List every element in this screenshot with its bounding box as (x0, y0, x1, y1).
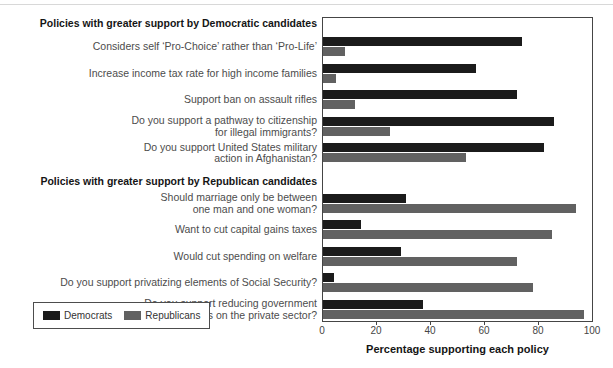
chart-row: Do you support privatizing elements of S… (0, 272, 613, 299)
legend-swatch-democrats (43, 311, 60, 320)
legend-label-republicans: Republicans (145, 310, 200, 321)
chart-row: Want to cut capital gains taxes (0, 219, 613, 246)
category-label: Want to cut capital gains taxes (0, 219, 322, 241)
bar-democrats (323, 117, 554, 126)
bar-democrats (323, 90, 517, 99)
bar-group (322, 246, 613, 273)
bar-republicans (323, 283, 533, 292)
chart-row: Should marriage only be between one man … (0, 193, 613, 220)
category-label-text: Do you support United States military ac… (144, 142, 317, 165)
category-label-text: Should marriage only be between one man … (161, 192, 317, 215)
bar-group (322, 36, 613, 63)
chart-canvas: Policies with greater support by Democra… (0, 0, 613, 368)
bar-group (322, 116, 613, 143)
x-tick-label: 20 (362, 325, 390, 336)
section-header-spacer (322, 169, 613, 193)
section-header-text: Policies with greater support by Democra… (40, 17, 317, 29)
category-label-text: Increase income tax rate for high income… (89, 68, 317, 80)
top-rule (0, 4, 613, 5)
legend-swatch-republicans (124, 311, 141, 320)
category-label-text: Do you support privatizing elements of S… (60, 277, 317, 289)
x-tick-label: 40 (416, 325, 444, 336)
section-header-text: Policies with greater support by Republi… (40, 175, 317, 187)
bar-democrats (323, 273, 334, 282)
bar-republicans (323, 310, 584, 319)
bar-democrats (323, 220, 361, 229)
bar-democrats (323, 247, 401, 256)
bar-democrats (323, 37, 522, 46)
section-header-label: Policies with greater support by Republi… (0, 169, 322, 193)
category-label-text: Support ban on assault rifles (184, 94, 317, 106)
category-label: Support ban on assault rifles (0, 89, 322, 111)
bar-group (322, 193, 613, 220)
legend-label-democrats: Democrats (64, 310, 112, 321)
category-label: Considers self ‘Pro-Choice’ rather than … (0, 36, 322, 58)
bar-group (322, 299, 613, 323)
bar-group (322, 142, 613, 169)
chart-row: Support ban on assault rifles (0, 89, 613, 116)
category-label-text: Would cut spending on welfare (174, 251, 317, 263)
x-axis: 020406080100 (322, 322, 593, 338)
chart-row: Do you support a pathway to citizenship … (0, 116, 613, 143)
bar-republicans (323, 257, 517, 266)
chart-row: Would cut spending on welfare (0, 246, 613, 273)
category-label: Increase income tax rate for high income… (0, 63, 322, 85)
bar-republicans (323, 74, 336, 83)
x-tick-label: 0 (308, 325, 336, 336)
bar-republicans (323, 127, 390, 136)
category-label: Do you support a pathway to citizenship … (0, 116, 322, 138)
bar-democrats (323, 194, 406, 203)
category-label-text: Considers self ‘Pro-Choice’ rather than … (93, 41, 317, 53)
x-tick-label: 80 (524, 325, 552, 336)
chart-row: Increase income tax rate for high income… (0, 63, 613, 90)
bar-democrats (323, 64, 476, 73)
category-label: Would cut spending on welfare (0, 246, 322, 268)
plot-rows: Policies with greater support by Democra… (0, 17, 613, 322)
section-header-label: Policies with greater support by Democra… (0, 17, 322, 36)
section-header-row: Policies with greater support by Republi… (0, 169, 613, 193)
x-tick-label: 100 (578, 325, 606, 336)
legend: Democrats Republicans (33, 302, 210, 329)
x-tick-label: 60 (470, 325, 498, 336)
bar-group (322, 272, 613, 299)
bar-republicans (323, 47, 345, 56)
bar-group (322, 219, 613, 246)
category-label: Do you support privatizing elements of S… (0, 272, 322, 294)
bar-group (322, 89, 613, 116)
category-label: Should marriage only be between one man … (0, 193, 322, 215)
bar-democrats (323, 300, 423, 309)
category-label-text: Do you support a pathway to citizenship … (131, 115, 317, 138)
category-label-text: Want to cut capital gains taxes (175, 224, 317, 236)
bar-group (322, 63, 613, 90)
bar-republicans (323, 153, 466, 162)
section-header-row: Policies with greater support by Democra… (0, 17, 613, 36)
category-label: Do you support United States military ac… (0, 142, 322, 164)
bar-republicans (323, 230, 552, 239)
section-header-spacer (322, 17, 613, 36)
chart-row: Do you support United States military ac… (0, 142, 613, 169)
x-axis-title: Percentage supporting each policy (322, 343, 593, 355)
bar-democrats (323, 143, 544, 152)
legend-entry-republicans: Republicans (124, 310, 200, 321)
legend-entry-democrats: Democrats (43, 310, 112, 321)
chart-row: Considers self ‘Pro-Choice’ rather than … (0, 36, 613, 63)
bar-republicans (323, 204, 576, 213)
bar-republicans (323, 100, 355, 109)
